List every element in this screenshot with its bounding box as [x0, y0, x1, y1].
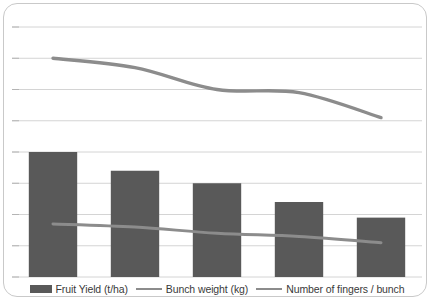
chart-legend: Fruit Yield (t/ha) Bunch weight (kg) Num…	[0, 279, 434, 299]
axis-ticks	[12, 27, 19, 277]
bar	[357, 218, 405, 277]
legend-label-bunch-weight: Bunch weight (kg)	[166, 284, 248, 295]
combo-chart	[0, 0, 434, 303]
legend-label-number-of-fingers: Number of fingers / bunch	[286, 284, 404, 295]
legend-bar-swatch-icon	[30, 285, 52, 293]
legend-label-fruit-yield: Fruit Yield (t/ha)	[56, 284, 128, 295]
legend-item-number-of-fingers: Number of fingers / bunch	[256, 284, 404, 295]
legend-line-swatch-icon	[256, 288, 282, 290]
legend-item-bunch-weight: Bunch weight (kg)	[136, 284, 248, 295]
line-series-number-of-fingers	[53, 58, 381, 117]
legend-item-fruit-yield: Fruit Yield (t/ha)	[30, 284, 128, 295]
bar	[29, 152, 77, 277]
bar	[275, 202, 323, 277]
legend-line-swatch-icon	[136, 288, 162, 290]
bar	[193, 183, 241, 277]
chart-screenshot: Fruit Yield (t/ha) Bunch weight (kg) Num…	[0, 0, 434, 303]
bar	[111, 171, 159, 277]
